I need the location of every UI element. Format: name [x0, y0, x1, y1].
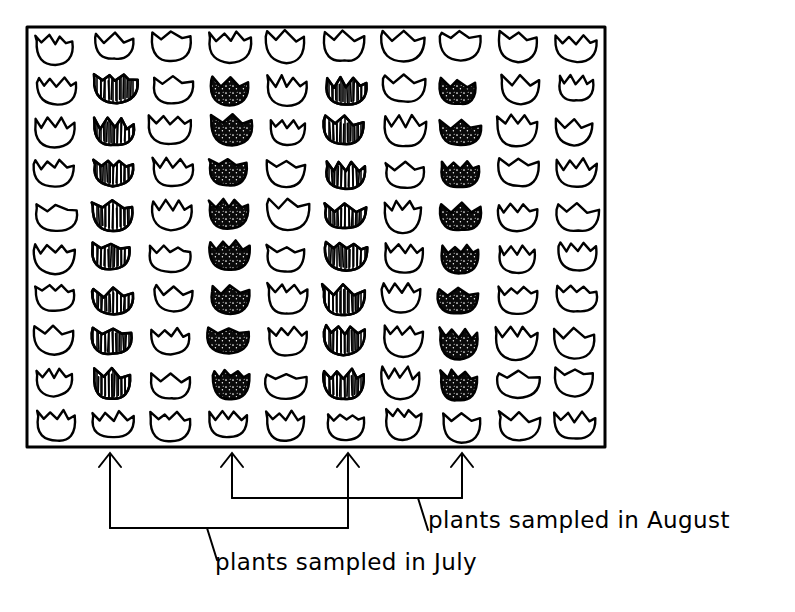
figure-root: plants sampled in July plants sampled in…: [0, 0, 795, 612]
flower-hatched: [94, 74, 138, 103]
label-plants-sampled-august: plants sampled in August: [428, 507, 730, 533]
label-plants-sampled-july: plants sampled in July: [215, 549, 477, 575]
plant-sampling-diagram: plants sampled in July plants sampled in…: [0, 0, 795, 612]
flower-shape: [207, 328, 249, 354]
flower-shape: [209, 159, 247, 185]
flower-solid: [209, 159, 247, 185]
flower-solid: [207, 328, 249, 354]
